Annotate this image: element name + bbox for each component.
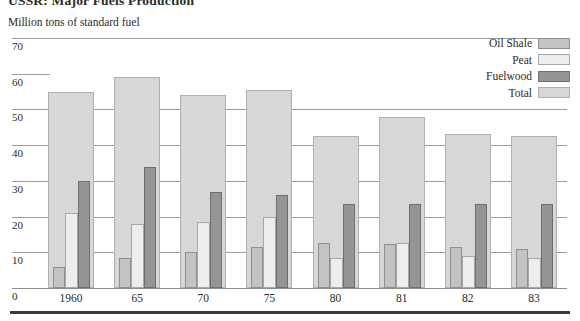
peat-swatch — [538, 54, 570, 65]
x-tick-75: 75 — [264, 292, 276, 304]
y-tick-10: 10 — [12, 254, 23, 266]
y-tick-50: 50 — [12, 111, 23, 123]
bar-group — [180, 38, 226, 288]
bar-peat[interactable] — [263, 217, 276, 288]
y-tick-20: 20 — [12, 219, 23, 231]
bar-peat[interactable] — [396, 243, 409, 288]
legend-label: Peat — [512, 54, 532, 66]
y-tick-40: 40 — [12, 147, 23, 159]
bar-oil-shale[interactable] — [450, 247, 462, 288]
bar-peat[interactable] — [197, 222, 210, 288]
x-tick-83: 83 — [528, 292, 540, 304]
legend-item[interactable]: Total — [466, 86, 570, 100]
bar-group — [48, 38, 94, 288]
bottom-rule — [10, 311, 570, 314]
total-swatch — [538, 87, 570, 98]
bar-fuelwood[interactable] — [276, 195, 288, 288]
x-tick-1960: 1960 — [60, 292, 83, 304]
bar-peat[interactable] — [65, 213, 78, 288]
bar-oil-shale[interactable] — [119, 258, 131, 288]
legend-label: Oil Shale — [489, 37, 532, 49]
x-tick-81: 81 — [396, 292, 408, 304]
y-tick-70: 70 — [12, 40, 23, 52]
bar-fuelwood[interactable] — [210, 192, 222, 288]
bar-peat[interactable] — [528, 258, 541, 288]
bar-peat[interactable] — [131, 224, 144, 288]
x-tick-70: 70 — [198, 292, 210, 304]
legend-label: Total — [509, 87, 532, 99]
bar-group — [313, 38, 359, 288]
bar-fuelwood[interactable] — [409, 204, 421, 288]
bar-oil-shale[interactable] — [516, 249, 528, 288]
bar-oil-shale[interactable] — [384, 244, 396, 288]
legend-label: Fuelwood — [486, 70, 532, 82]
chart-legend: Oil ShalePeatFuelwoodTotal — [466, 36, 570, 102]
bar-group — [379, 38, 425, 288]
y-tick-0: 0 — [12, 290, 18, 302]
bar-peat[interactable] — [330, 258, 343, 288]
y-tick-60: 60 — [12, 76, 23, 88]
legend-item[interactable]: Fuelwood — [466, 69, 570, 83]
bar-fuelwood[interactable] — [541, 204, 553, 288]
bar-oil-shale[interactable] — [251, 247, 263, 288]
y-tick-30: 30 — [12, 183, 23, 195]
bar-oil-shale[interactable] — [53, 267, 65, 288]
bar-fuelwood[interactable] — [343, 204, 355, 288]
bar-oil-shale[interactable] — [185, 252, 197, 288]
x-axis-tick-labels: 196065707580818283 — [38, 292, 567, 310]
fuelwood-swatch — [538, 71, 570, 82]
bar-fuelwood[interactable] — [144, 167, 156, 288]
oil-shale-swatch — [538, 38, 570, 49]
bar-oil-shale[interactable] — [318, 243, 330, 288]
x-tick-65: 65 — [131, 292, 143, 304]
zero-axis-line — [12, 288, 567, 289]
bar-fuelwood[interactable] — [475, 204, 487, 288]
bar-group — [114, 38, 160, 288]
legend-item[interactable]: Peat — [466, 53, 570, 67]
bar-peat[interactable] — [462, 256, 475, 288]
x-tick-82: 82 — [462, 292, 474, 304]
legend-item[interactable]: Oil Shale — [466, 36, 570, 50]
bar-fuelwood[interactable] — [78, 181, 90, 288]
x-tick-80: 80 — [330, 292, 342, 304]
bar-group — [246, 38, 292, 288]
